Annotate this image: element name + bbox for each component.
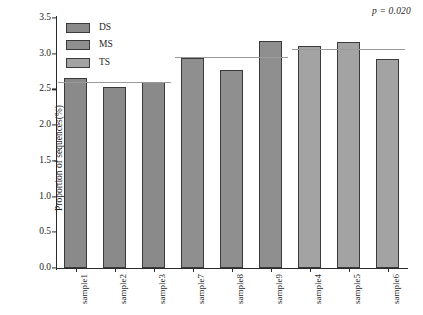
legend-item-ds: DS <box>66 22 113 33</box>
x-axis-tick-mark <box>388 268 389 272</box>
x-axis-tick-label: sample2 <box>119 274 128 304</box>
legend-swatch-ts <box>66 58 90 68</box>
legend-swatch-ms <box>66 40 90 50</box>
bar-sample2 <box>103 87 126 268</box>
y-axis-tick-label: 3.0 <box>39 49 56 59</box>
bar-sample1 <box>64 78 87 268</box>
y-axis-tick-label: 1.5 <box>39 156 56 166</box>
reference-line-MS <box>175 57 289 58</box>
y-axis-tick-label: 2.5 <box>39 85 56 95</box>
x-axis-tick-label: sample8 <box>236 274 245 304</box>
legend-label-ds: DS <box>99 23 111 33</box>
legend-label-ts: TS <box>99 58 110 68</box>
x-axis-tick-label: sample4 <box>314 274 323 304</box>
bar-sample3 <box>142 82 165 268</box>
x-axis-tick-mark <box>76 268 77 272</box>
x-axis-tick-label: sample6 <box>392 274 401 304</box>
x-axis-tick-mark <box>115 268 116 272</box>
p-value-annotation: p = 0.020 <box>372 6 411 16</box>
x-axis-tick-mark <box>193 268 194 272</box>
x-axis-tick-label: sample7 <box>197 274 206 304</box>
legend-label-ms: MS <box>99 40 113 50</box>
x-axis-tick-label: sample5 <box>353 274 362 304</box>
reference-line-DS <box>58 82 172 83</box>
x-axis-tick-mark <box>349 268 350 272</box>
chart-legend: DSMSTS <box>66 22 113 68</box>
x-axis-tick-label: sample9 <box>275 274 284 304</box>
y-axis-tick-label: 0.0 <box>39 263 56 273</box>
legend-item-ms: MS <box>66 40 113 51</box>
x-axis-tick-mark <box>154 268 155 272</box>
y-axis-tick-label: 2.0 <box>39 120 56 130</box>
bar-sample9 <box>259 41 282 268</box>
bar-sample4 <box>298 46 321 268</box>
x-axis-tick-label: sample3 <box>158 274 167 304</box>
legend-swatch-ds <box>66 23 90 33</box>
bar-sample8 <box>220 70 243 268</box>
x-axis-tick-label: sample1 <box>80 274 89 304</box>
x-axis-tick-mark <box>271 268 272 272</box>
reference-line-TS <box>292 49 406 50</box>
bar-chart-figure: p = 0.020 Proportion of sequences(%) 0.0… <box>0 0 423 315</box>
y-axis-tick-label: 0.5 <box>39 228 56 238</box>
y-axis-tick-label: 3.5 <box>39 13 56 23</box>
bar-sample5 <box>337 42 360 268</box>
y-axis-tick-label: 1.0 <box>39 192 56 202</box>
legend-item-ts: TS <box>66 57 113 68</box>
bar-sample7 <box>181 58 204 268</box>
bar-sample6 <box>376 59 399 268</box>
x-axis-tick-mark <box>232 268 233 272</box>
x-axis-tick-mark <box>310 268 311 272</box>
